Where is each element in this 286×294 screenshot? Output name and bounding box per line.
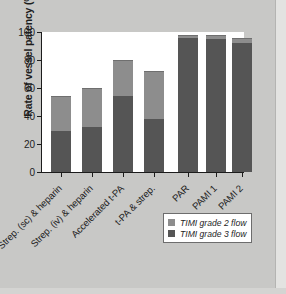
bar-2[interactable] bbox=[113, 60, 133, 172]
bar-segment-grade3 bbox=[206, 39, 226, 172]
bar-6[interactable] bbox=[232, 38, 252, 172]
bar-segment-grade3 bbox=[82, 127, 102, 172]
x-tick-mark bbox=[154, 172, 155, 177]
y-tick-mark bbox=[37, 116, 42, 117]
y-tick-label: 40 bbox=[24, 111, 35, 122]
y-tick-mark bbox=[37, 32, 42, 33]
bar-4[interactable] bbox=[178, 35, 198, 172]
bar-chart-figure: Rate of vessel patency (%) 020406080100 … bbox=[0, 0, 286, 294]
x-tick-mark bbox=[61, 172, 62, 177]
plot-area: 020406080100 bbox=[41, 32, 244, 173]
y-tick-label: 0 bbox=[29, 167, 35, 178]
bar-segment-grade2 bbox=[113, 60, 133, 96]
legend-swatch-icon bbox=[168, 219, 175, 226]
y-tick-label: 80 bbox=[24, 55, 35, 66]
x-tick-mark bbox=[92, 172, 93, 177]
bar-0[interactable] bbox=[51, 96, 71, 172]
legend-entry-0: TIMI grade 2 flow bbox=[168, 217, 246, 228]
bar-5[interactable] bbox=[206, 35, 226, 172]
x-tick-mark bbox=[123, 172, 124, 177]
y-tick-mark bbox=[37, 60, 42, 61]
x-tick-mark bbox=[188, 172, 189, 177]
y-tick-mark bbox=[37, 172, 42, 173]
y-tick-label: 60 bbox=[24, 83, 35, 94]
legend-swatch-icon bbox=[168, 230, 175, 237]
y-tick-label: 20 bbox=[24, 139, 35, 150]
x-tick-mark bbox=[242, 172, 243, 177]
bar-1[interactable] bbox=[82, 88, 102, 172]
bar-segment-grade2 bbox=[82, 88, 102, 127]
y-tick-label: 100 bbox=[18, 27, 35, 38]
legend-entry-1: TIMI grade 3 flow bbox=[168, 228, 246, 239]
y-tick-mark bbox=[37, 88, 42, 89]
bar-segment-grade3 bbox=[144, 119, 164, 172]
bar-segment-grade3 bbox=[51, 131, 71, 172]
bar-segment-grade2 bbox=[51, 96, 71, 131]
bar-segment-grade3 bbox=[178, 38, 198, 172]
bar-3[interactable] bbox=[144, 71, 164, 172]
legend-label: TIMI grade 2 flow bbox=[180, 218, 246, 228]
chart-legend: TIMI grade 2 flowTIMI grade 3 flow bbox=[163, 213, 252, 243]
bar-segment-grade2 bbox=[144, 71, 164, 119]
bar-segment-grade3 bbox=[113, 96, 133, 172]
legend-label: TIMI grade 3 flow bbox=[180, 229, 246, 239]
x-tick-mark bbox=[216, 172, 217, 177]
y-tick-mark bbox=[37, 144, 42, 145]
bar-segment-grade3 bbox=[232, 43, 252, 172]
